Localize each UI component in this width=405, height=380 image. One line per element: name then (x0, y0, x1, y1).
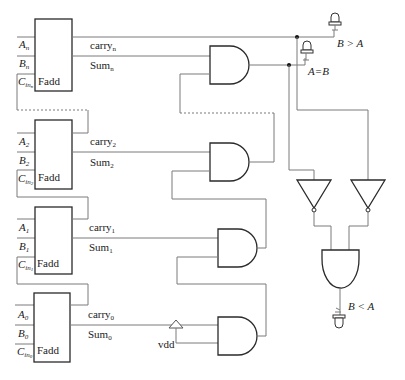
led-equal-indicator: A=B (301, 41, 329, 77)
full-adder-2: A2 B2 Cin2 Fadd carry2 Sum2 (17, 120, 117, 219)
and-gate-0 (218, 317, 257, 355)
input-b-label: B2 (19, 154, 30, 168)
sum-label: Sum0 (88, 328, 112, 342)
carry-label: carry0 (88, 308, 115, 322)
led-less-indicator: B < A (333, 300, 374, 328)
input-a-label: An (18, 38, 30, 52)
full-adder-1: A1 B1 Cin1 Fadd carry1 Sum1 (17, 207, 116, 305)
fadd-label: Fadd (38, 171, 61, 183)
and-gate-n (210, 46, 249, 84)
input-b-label: B1 (19, 240, 29, 254)
carry-in-label: Cin1 (18, 258, 33, 272)
input-a-label: A2 (18, 135, 30, 149)
output-greater-label: B > A (337, 37, 363, 49)
and-gate-2 (210, 143, 249, 181)
full-adder-0: A0 B0 Cin0 Fadd carry0 Sum0 (15, 293, 115, 362)
input-a-label: A1 (18, 221, 29, 235)
inverter-right (351, 180, 385, 212)
carry-in-label: Cin0 (17, 345, 33, 359)
vdd-label: vdd (158, 338, 175, 350)
fadd-label: Fadd (38, 75, 61, 87)
fadd-label: Fadd (37, 344, 60, 356)
sum-label: Sum2 (90, 156, 114, 170)
full-adder-n: An Bn Cinn Fadd carryn Sumn (17, 19, 117, 110)
and-gate-1 (218, 229, 257, 267)
and-gate-final (322, 250, 359, 288)
carry-in-label: Cin2 (18, 172, 34, 186)
led-greater-indicator: B > A (329, 13, 363, 49)
input-a-label: A0 (17, 308, 29, 322)
output-equal-label: A=B (307, 65, 329, 77)
inverter-left (297, 180, 331, 212)
comparator-circuit-diagram: An Bn Cinn Fadd carryn Sumn A2 B2 Cin2 F… (0, 0, 405, 380)
sum-label: Sumn (90, 59, 114, 73)
carry-label: carry2 (90, 135, 117, 149)
carry-label: carryn (90, 39, 117, 53)
carry-in-label: Cinn (18, 75, 34, 89)
output-less-label: B < A (348, 300, 374, 312)
input-b-label: B0 (18, 327, 29, 341)
input-b-label: Bn (19, 57, 30, 71)
sum-label: Sum1 (89, 241, 113, 255)
fadd-label: Fadd (37, 257, 60, 269)
carry-label: carry1 (89, 221, 116, 235)
